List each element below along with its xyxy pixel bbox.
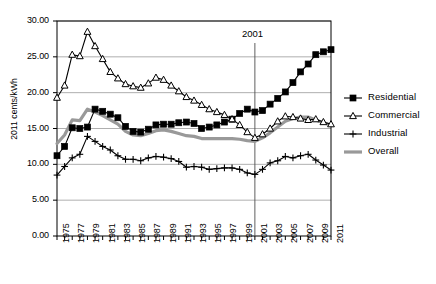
y-axis-tick-label: 30.00 (11, 15, 49, 25)
data-point-marker (77, 126, 83, 132)
data-point-marker (137, 157, 144, 164)
data-point-marker (61, 82, 68, 88)
data-point-marker (168, 155, 175, 162)
x-axis-tick-label: 1985 (137, 223, 147, 243)
data-point-marker (122, 80, 129, 86)
data-point-marker (84, 133, 91, 140)
data-point-marker (251, 171, 258, 178)
data-point-marker (305, 61, 311, 67)
data-point-marker (274, 118, 281, 124)
data-point-marker (198, 101, 205, 107)
data-point-marker (328, 47, 334, 53)
data-point-marker (145, 126, 151, 132)
data-point-marker (236, 121, 243, 127)
data-point-marker (290, 80, 296, 86)
data-point-marker (92, 106, 98, 112)
data-point-marker (107, 111, 113, 117)
data-point-marker (153, 74, 160, 80)
data-point-marker (54, 153, 60, 159)
data-point-marker (145, 154, 152, 161)
data-point-marker (297, 152, 304, 159)
legend-item-residential[interactable] (344, 95, 362, 101)
data-point-marker (198, 164, 205, 171)
data-point-marker (206, 124, 212, 130)
chart-figure: 2011 cents/kWh 0.005.0010.0015.0020.0025… (0, 0, 436, 284)
legend-marker-icon (350, 131, 357, 138)
data-point-marker (107, 68, 114, 74)
legend-item-label: Residential (368, 91, 416, 102)
data-point-marker (92, 138, 99, 145)
data-point-marker (320, 162, 327, 169)
data-point-marker (100, 108, 106, 114)
legend-item-commercial[interactable] (344, 112, 362, 118)
data-point-marker (92, 42, 99, 48)
data-point-marker (214, 122, 220, 128)
data-point-marker (229, 165, 236, 172)
data-point-marker (76, 151, 83, 158)
x-axis-tick-label: 2011 (335, 224, 345, 243)
data-point-marker (160, 154, 167, 161)
annotation-label: 2001 (242, 28, 263, 39)
data-point-marker (221, 119, 227, 125)
data-point-marker (130, 156, 137, 163)
data-point-marker (191, 97, 198, 103)
data-point-marker (130, 128, 136, 134)
data-point-marker (206, 106, 213, 112)
x-axis-tick-label: 2009 (320, 223, 330, 243)
x-axis-tick-label: 1989 (168, 223, 178, 243)
data-point-marker (260, 108, 266, 114)
x-axis-tick-label: 1975 (61, 223, 71, 243)
x-axis-tick-label: 1997 (228, 223, 238, 243)
legend-item-label: Commercial (368, 109, 420, 120)
data-point-marker (274, 157, 281, 164)
data-point-marker (282, 153, 289, 160)
data-point-marker (275, 95, 281, 101)
data-point-marker (153, 153, 160, 160)
data-point-marker (221, 165, 228, 172)
data-point-marker (168, 121, 174, 127)
legend-item-industrial[interactable] (344, 131, 362, 138)
data-point-marker (183, 93, 190, 99)
data-point-marker (176, 120, 182, 126)
data-point-marker (251, 134, 258, 140)
data-point-marker (122, 156, 129, 163)
data-point-marker (183, 119, 189, 125)
data-point-marker (290, 154, 297, 161)
y-axis-tick-label: 15.00 (11, 123, 49, 133)
y-axis-tick-label: 20.00 (11, 87, 49, 97)
data-point-marker (123, 123, 129, 129)
x-axis-tick-label: 1995 (213, 223, 223, 243)
data-point-marker (99, 55, 106, 61)
data-point-marker (213, 165, 220, 172)
data-point-marker (54, 94, 61, 100)
x-axis-tick-label: 2003 (274, 223, 284, 243)
x-axis-tick-label: 1993 (198, 223, 208, 243)
x-axis-tick-label: 1979 (91, 223, 101, 243)
x-axis-tick-label: 1999 (244, 223, 254, 243)
x-axis-tick-label: 1977 (76, 223, 86, 243)
data-point-marker (153, 122, 159, 128)
x-axis-tick-label: 1991 (183, 223, 193, 243)
data-point-marker (236, 166, 243, 173)
data-point-marker (313, 52, 319, 58)
y-axis-tick-label: 5.00 (11, 194, 49, 204)
legend-item-label: Overall (368, 145, 399, 156)
data-point-marker (191, 120, 197, 126)
data-point-marker (161, 121, 167, 127)
data-point-marker (298, 69, 304, 75)
data-point-marker (115, 115, 121, 121)
data-point-marker (199, 126, 205, 132)
y-axis-tick-label: 0.00 (11, 230, 49, 240)
legend-item-label: Industrial (368, 127, 408, 138)
data-point-marker (328, 167, 335, 174)
data-point-marker (282, 113, 289, 119)
data-point-marker (252, 109, 258, 115)
data-point-marker (168, 82, 175, 88)
data-point-marker (175, 88, 182, 94)
data-point-marker (84, 124, 90, 130)
legend-marker-icon (350, 95, 356, 101)
data-point-marker (69, 125, 75, 131)
data-point-marker (145, 80, 152, 86)
series-industrial (54, 133, 335, 179)
data-point-marker (259, 131, 266, 137)
